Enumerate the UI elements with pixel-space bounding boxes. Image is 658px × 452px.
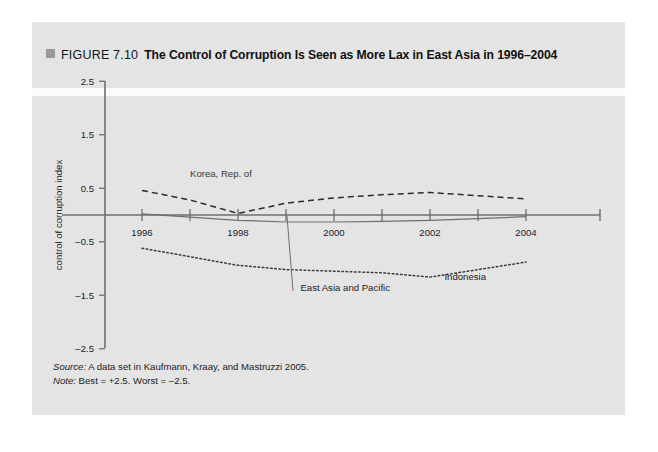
x-axis-tick-label: 1998 [227, 227, 248, 238]
x-axis-tick-label: 2002 [419, 227, 440, 238]
y-axis-tick-label: 2.5 [81, 76, 94, 87]
x-axis-tick-label: 2004 [515, 227, 537, 238]
y-axis-tick-label: 0.5 [81, 183, 94, 194]
source-text: A data set in Kaufmann, Kraay, and Mastr… [86, 361, 309, 372]
note-text: Best = +2.5. Worst = –2.5. [76, 375, 190, 386]
x-axis-tick-label: 1996 [131, 227, 152, 238]
y-axis-tick-label: –1.5 [75, 290, 94, 301]
y-axis-tick-label: –2.5 [75, 343, 94, 354]
series-label-indonesia: Indonesia [444, 271, 486, 282]
east-asia-leader-line [287, 216, 293, 291]
y-axis-title: control of corruption index [53, 160, 64, 271]
x-axis-tick-label: 2000 [323, 227, 344, 238]
y-axis-tick-label: –0.5 [75, 236, 94, 247]
series-label-korea: Korea, Rep. of [190, 168, 252, 179]
note-label: Note: [53, 375, 76, 386]
source-label: Source: [53, 361, 86, 372]
series-label-east-asia-and-pacific: East Asia and Pacific [300, 282, 390, 293]
source-line: Source: A data set in Kaufmann, Kraay, a… [53, 360, 309, 374]
y-axis-tick-label: 1.5 [81, 129, 94, 140]
x-axis-tick-group: 19961998200020022004 [131, 209, 537, 238]
note-line: Note: Best = +2.5. Worst = –2.5. [53, 374, 309, 388]
figure-footnotes: Source: A data set in Kaufmann, Kraay, a… [53, 360, 309, 387]
